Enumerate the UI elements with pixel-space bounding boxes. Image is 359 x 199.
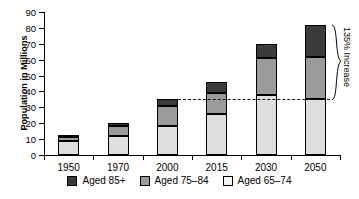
x-tick-mark (44, 155, 45, 160)
bar-segment-1970-light (108, 136, 129, 155)
bar-segment-2015-light (206, 114, 227, 155)
increase-annotation-label: 135% Increase (342, 27, 352, 87)
x-tick-mark (143, 155, 144, 160)
bar-segment-1970-mid (108, 126, 129, 136)
bar-segment-2000-dark (157, 99, 178, 105)
x-tick-mark (340, 155, 341, 160)
y-tick-mark (39, 60, 44, 61)
y-tick-mark (39, 76, 44, 77)
bar-segment-2015-mid (206, 93, 227, 114)
y-tick-mark (39, 12, 44, 13)
bar-segment-2030-dark (256, 44, 277, 58)
bar-2000 (157, 12, 178, 155)
bar-segment-2050-light (305, 99, 326, 155)
bar-segment-1950-light (58, 141, 79, 155)
legend-swatch-aged-75-84 (140, 176, 150, 186)
y-tick-label: 70 (0, 40, 36, 50)
y-tick-mark (39, 44, 44, 45)
bar-2030 (256, 12, 277, 155)
legend-swatch-aged-85-plus (67, 176, 77, 186)
y-tick-label: 90 (0, 8, 36, 18)
legend-item: Aged 65–74 (223, 176, 292, 186)
x-tick-label: 2050 (285, 162, 345, 173)
bar-segment-1970-dark (108, 123, 129, 125)
bar-segment-1950-mid (58, 137, 79, 141)
y-tick-label: 10 (0, 135, 36, 145)
legend-item: Aged 75–84 (140, 176, 209, 186)
bar-segment-2050-dark (305, 25, 326, 57)
bar-2015 (206, 12, 227, 155)
legend-item: Aged 85+ (67, 176, 125, 186)
y-tick-label: 20 (0, 119, 36, 129)
x-tick-mark (291, 155, 292, 160)
y-tick-label: 0 (0, 151, 36, 161)
chart-legend: Aged 85+ Aged 75–84 Aged 65–74 (0, 176, 359, 186)
y-tick-mark (39, 28, 44, 29)
x-tick-mark (241, 155, 242, 160)
plot-area: 0102030405060708090 19501970200020152030… (44, 12, 340, 155)
y-tick-label: 40 (0, 87, 36, 97)
y-tick-mark (39, 123, 44, 124)
legend-swatch-aged-65-74 (223, 176, 233, 186)
bar-segment-2015-dark (206, 82, 227, 93)
bar-segment-2000-mid (157, 106, 178, 127)
y-tick-label: 50 (0, 72, 36, 82)
bar-segment-1950-dark (58, 135, 79, 137)
y-axis-title: Population in Millions (19, 16, 29, 151)
bar-2050 (305, 12, 326, 155)
y-tick-mark (39, 91, 44, 92)
y-axis-line (44, 12, 45, 156)
legend-label-aged-75-84: Aged 75–84 (155, 176, 209, 186)
x-tick-mark (93, 155, 94, 160)
bar-segment-2050-mid (305, 57, 326, 100)
bar-1970 (108, 12, 129, 155)
x-tick-mark (192, 155, 193, 160)
legend-label-aged-85-plus: Aged 85+ (82, 176, 125, 186)
bar-segment-2030-mid (256, 58, 277, 95)
bar-1950 (58, 12, 79, 155)
y-tick-mark (39, 139, 44, 140)
y-tick-label: 30 (0, 103, 36, 113)
bar-segment-2000-light (157, 126, 178, 155)
legend-label-aged-65-74: Aged 65–74 (238, 176, 292, 186)
population-stacked-bar-chart: Population in Millions 01020304050607080… (0, 0, 359, 199)
y-tick-label: 80 (0, 24, 36, 34)
bar-segment-2030-light (256, 95, 277, 155)
reference-line-35m (178, 99, 330, 100)
y-tick-label: 60 (0, 56, 36, 66)
y-tick-mark (39, 107, 44, 108)
